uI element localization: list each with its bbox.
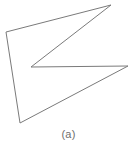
figure-caption: (a) — [0, 127, 137, 141]
polygon-canvas — [0, 0, 137, 131]
concave-polygon-shape — [6, 5, 128, 123]
figure-panel: (a) — [0, 0, 137, 144]
